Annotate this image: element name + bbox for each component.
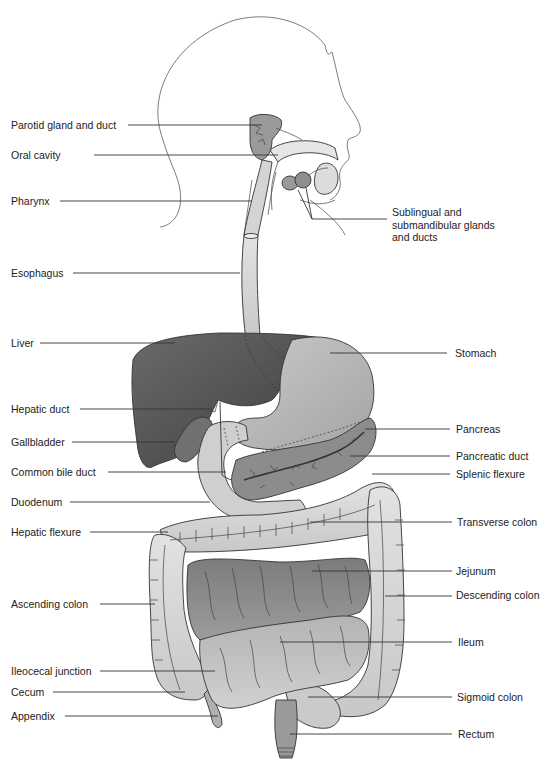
label-esophagus: Esophagus (11, 267, 64, 279)
label-ascending-colon: Ascending colon (11, 598, 88, 610)
label-salivary-glands: Sublingual and submandibular glands and … (392, 206, 495, 244)
label-ileum: Ileum (458, 636, 484, 648)
label-sigmoid-colon: Sigmoid colon (457, 691, 523, 703)
label-splenic-flexure: Splenic flexure (456, 468, 525, 480)
label-duodenum: Duodenum (11, 496, 62, 508)
label-rectum: Rectum (458, 728, 494, 740)
label-pharynx: Pharynx (11, 195, 50, 207)
label-hepatic-duct: Hepatic duct (11, 403, 69, 415)
label-gallbladder: Gallbladder (11, 436, 65, 448)
label-pancreas: Pancreas (456, 423, 500, 435)
label-hepatic-flexure: Hepatic flexure (11, 526, 81, 538)
label-descending-colon: Descending colon (456, 589, 539, 601)
digestive-system-diagram (0, 0, 552, 777)
rectum (275, 700, 297, 758)
label-common-bile-duct: Common bile duct (11, 466, 96, 478)
label-oral-cavity: Oral cavity (11, 149, 61, 161)
label-parotid-gland: Parotid gland and duct (11, 119, 116, 131)
label-cecum: Cecum (11, 686, 44, 698)
label-pancreatic-duct: Pancreatic duct (456, 450, 528, 462)
label-stomach: Stomach (455, 347, 496, 359)
label-ileocecal-junction: Ileocecal junction (11, 665, 92, 677)
label-jejunum: Jejunum (456, 565, 496, 577)
pharynx-esophagus (242, 160, 276, 340)
label-liver: Liver (11, 337, 34, 349)
label-transverse-colon: Transverse colon (457, 516, 537, 528)
label-appendix: Appendix (11, 710, 55, 722)
